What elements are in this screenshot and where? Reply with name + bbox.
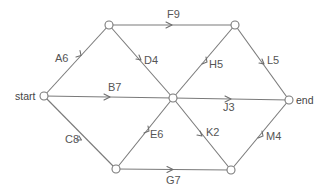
arrow-icon: [144, 126, 149, 133]
edge-c: [44, 96, 116, 169]
arrow-icon: [136, 55, 141, 60]
network-diagram: start end A6 B7 C8 D4 E6 F9 G7 H5 J3 K2 …: [0, 0, 332, 192]
edge-label-h: H5: [209, 58, 223, 70]
edge-label-f: F9: [167, 8, 180, 20]
edge-label-g: G7: [166, 174, 181, 186]
end-label: end: [296, 94, 314, 106]
node-center[interactable]: [169, 94, 177, 102]
node-top-right[interactable]: [231, 21, 239, 29]
edge-l: [235, 25, 289, 100]
edge-label-a: A6: [55, 52, 68, 64]
node-bottom-left[interactable]: [112, 165, 120, 173]
edge-label-e: E6: [150, 128, 163, 140]
node-end[interactable]: [285, 96, 293, 104]
edge-label-c: C8: [65, 133, 79, 145]
node-bottom-right[interactable]: [227, 166, 235, 174]
edge-h: [173, 25, 235, 98]
arrow-icon: [76, 51, 81, 58]
edge-label-m: M4: [266, 130, 281, 142]
node-start[interactable]: [40, 92, 48, 100]
edges: [44, 25, 289, 170]
edge-label-l: L5: [267, 54, 279, 66]
node-top-left[interactable]: [105, 21, 113, 29]
start-label: start: [15, 90, 36, 102]
edge-a: [44, 25, 109, 96]
edge-e: [116, 98, 173, 169]
edge-label-k: K2: [206, 126, 219, 138]
edge-label-j: J3: [223, 101, 235, 113]
edge-label-d: D4: [144, 54, 158, 66]
edge-label-b: B7: [108, 81, 121, 93]
